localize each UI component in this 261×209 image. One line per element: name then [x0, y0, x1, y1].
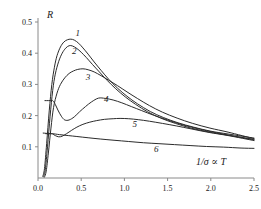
curve-label-2: 2	[72, 46, 77, 56]
axes	[38, 18, 254, 178]
curve-label-4: 4	[104, 94, 109, 104]
curve-label-6: 6	[154, 144, 159, 154]
curve-label-3: 3	[85, 72, 91, 82]
curve-labels: 123456	[72, 28, 159, 154]
y-tick-label: 0.2	[22, 112, 32, 121]
curve-label-1: 1	[75, 28, 80, 38]
y-tick-label: 0.4	[22, 49, 32, 58]
curve-5	[46, 118, 254, 140]
x-axis-title: 1/σ ∝ T	[196, 156, 227, 167]
plot-canvas: 0.10.20.30.40.50.00.51.01.52.02.5 123456…	[0, 0, 261, 209]
y-tick-label: 0.1	[22, 143, 32, 152]
x-tick-label: 2.0	[206, 184, 216, 193]
y-tick-label: 0.5	[22, 18, 32, 27]
chart-figure: 0.10.20.30.40.50.00.51.01.52.02.5 123456…	[0, 0, 261, 209]
curve-4	[45, 98, 254, 140]
curve-label-5: 5	[133, 119, 138, 129]
y-tick-label: 0.3	[22, 80, 32, 89]
x-tick-label: 1.0	[119, 184, 129, 193]
x-tick-label: 0.0	[33, 184, 43, 193]
x-tick-label: 0.5	[76, 184, 86, 193]
x-tick-label: 1.5	[163, 184, 173, 193]
curve-6	[43, 133, 254, 148]
x-tick-label: 2.5	[249, 184, 259, 193]
y-axis-title: R	[46, 9, 53, 20]
